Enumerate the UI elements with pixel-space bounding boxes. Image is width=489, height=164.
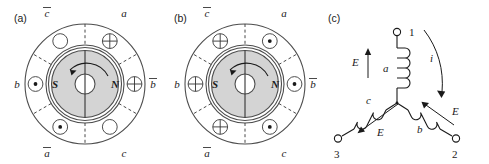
slot-winding-left <box>188 77 203 92</box>
rotor-south-pole-label: S <box>52 78 58 90</box>
terminal-node-3[interactable] <box>334 135 341 142</box>
emf-b-arrow-line <box>426 105 454 125</box>
panel-c-label: (c) <box>328 12 340 24</box>
slot-winding-left <box>28 77 43 92</box>
svg-text:c: c <box>45 7 50 19</box>
panel-b-label: (b) <box>174 12 187 24</box>
coil-a-label: a <box>383 62 389 74</box>
slot-winding-right <box>287 77 302 92</box>
coil-b-label: b <box>417 123 423 135</box>
phase-label-a-bar-bottom: a <box>43 147 51 159</box>
svg-text:a: a <box>44 147 50 159</box>
slot-winding-bottom-right <box>102 120 117 135</box>
phase-label-a-top: a <box>281 7 287 19</box>
svg-text:b: b <box>310 78 316 90</box>
stator-divider-lower-right <box>119 104 137 115</box>
phase-label-a-top: a <box>121 7 127 19</box>
stator-divider-upper-right <box>279 54 297 65</box>
slot-winding-bottom-left <box>213 120 228 135</box>
lead-coil-c-to-terminal3 <box>342 129 354 136</box>
lead-neutral-to-coil-b <box>397 103 408 110</box>
emf-b-arrow-head <box>422 102 430 109</box>
phase-label-c-bottom: c <box>122 147 127 159</box>
slot-winding-top-left <box>213 34 228 49</box>
panel-a-machine-cross-section: (a) <box>0 0 160 164</box>
figure-container: (a) <box>0 0 489 164</box>
emf-c-label: E <box>376 126 384 138</box>
current-label: i <box>430 52 433 64</box>
current-arrow-head <box>437 91 445 99</box>
rotor-south-pole-label: S <box>212 78 218 90</box>
slot-winding-bottom-right <box>262 120 277 135</box>
slot-winding-top-right <box>262 34 277 49</box>
svg-text:b: b <box>150 78 156 90</box>
phase-label-a-bar-bottom: a <box>203 147 211 159</box>
phase-label-b-bar-right: b <box>309 78 317 90</box>
slot-winding-top-left <box>53 34 68 49</box>
panel-b-machine-cross-section: (b) <box>160 0 320 164</box>
terminal-label-2: 2 <box>452 148 458 160</box>
coil-c-label: c <box>366 94 371 106</box>
emf-a-arrow-head <box>365 48 371 55</box>
terminal-label-1: 1 <box>409 26 415 38</box>
phase-label-c-bar-top: c <box>203 7 211 19</box>
phase-label-b-left: b <box>14 78 20 90</box>
slot-winding-bottom-left <box>53 120 68 135</box>
phase-label-b-left: b <box>174 78 180 90</box>
svg-text:c: c <box>205 7 210 19</box>
svg-text:a: a <box>204 147 210 159</box>
phase-label-c-bottom: c <box>282 147 287 159</box>
slot-winding-top-right <box>102 34 117 49</box>
emf-a-label: E <box>351 56 359 68</box>
lead-coil-b-to-terminal2 <box>440 129 452 136</box>
stator-divider-upper-left <box>33 54 51 65</box>
emf-b-label: E <box>451 105 459 117</box>
rotor-north-pole-label: N <box>110 78 120 90</box>
phase-label-b-bar-right: b <box>149 78 157 90</box>
terminal-label-3: 3 <box>334 148 340 160</box>
rotor-north-pole-label: N <box>270 78 280 90</box>
coil-b <box>408 110 440 129</box>
panel-c-wye-circuit-diagram: (c) 1 a E i c 3 E b <box>320 0 489 164</box>
terminal-node-2[interactable] <box>452 135 459 142</box>
stator-divider-lower-left <box>193 104 211 115</box>
stator-divider-upper-right <box>119 54 137 65</box>
terminal-node-1[interactable] <box>393 28 400 35</box>
stator-divider-lower-left <box>33 104 51 115</box>
coil-a <box>397 48 410 88</box>
phase-label-c-bar-top: c <box>43 7 51 19</box>
stator-divider-upper-left <box>193 54 211 65</box>
slot-winding-right <box>127 77 142 92</box>
panel-a-label: (a) <box>14 12 27 24</box>
current-arc-line <box>424 30 442 92</box>
stator-divider-lower-right <box>279 104 297 115</box>
